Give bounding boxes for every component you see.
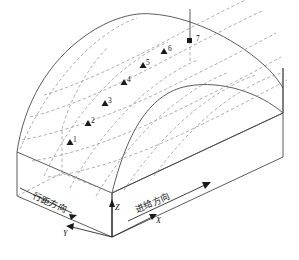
left-arch-profile xyxy=(17,14,152,152)
axis-x xyxy=(112,214,157,237)
axis-label-x: X xyxy=(156,216,161,225)
point-label-7: 7 xyxy=(196,34,200,43)
scene-svg xyxy=(0,0,299,260)
point-label-2: 2 xyxy=(91,116,95,125)
point-marker-7 xyxy=(187,38,192,43)
measurement-point-markers xyxy=(67,38,193,145)
point-label-3: 3 xyxy=(108,96,112,105)
axis-label-y: Y xyxy=(63,229,67,238)
diagram-canvas: 1 2 3 4 5 6 7 Z X Y 行距方向 进给方向 xyxy=(0,0,299,260)
front-left-face xyxy=(17,152,112,237)
point-label-6: 6 xyxy=(168,44,172,53)
point-label-1: 1 xyxy=(73,135,77,144)
axis-label-z: Z xyxy=(115,203,119,212)
point-label-4: 4 xyxy=(127,75,131,84)
point-marker-6 xyxy=(161,48,168,54)
point-label-5: 5 xyxy=(146,58,150,67)
axis-y xyxy=(66,223,112,237)
right-arch-profile xyxy=(112,68,283,193)
hidden-edges xyxy=(17,47,112,196)
